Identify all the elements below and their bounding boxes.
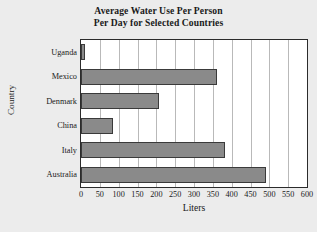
x-tick-label-100: 100 — [113, 190, 125, 199]
y-tick-label-australia: Australia — [47, 170, 77, 179]
bar-italy[interactable] — [81, 142, 225, 158]
y-tick-label-china: China — [57, 121, 77, 130]
x-tick-label-50: 50 — [96, 190, 104, 199]
x-tick-label-400: 400 — [226, 190, 238, 199]
x-tick-label-250: 250 — [169, 190, 181, 199]
bar-australia[interactable] — [81, 167, 266, 183]
y-axis-title: Country — [6, 70, 16, 130]
x-tick-label-150: 150 — [131, 190, 143, 199]
plot-area — [80, 39, 308, 188]
y-tick-label-denmark: Denmark — [46, 97, 77, 106]
bar-denmark[interactable] — [81, 93, 159, 109]
y-axis-tick-labels: UgandaMexicoDenmarkChinaItalyAustralia — [22, 39, 77, 188]
x-tick-label-300: 300 — [188, 190, 200, 199]
bars-layer — [81, 40, 307, 187]
x-tick-label-200: 200 — [150, 190, 162, 199]
y-tick-label-italy: Italy — [62, 146, 77, 155]
x-tick-label-350: 350 — [207, 190, 219, 199]
x-axis-title: Liters — [80, 202, 308, 213]
bar-row — [81, 93, 307, 109]
x-tick-label-600: 600 — [301, 190, 313, 199]
bar-chart-figure: Average Water Use Per Person Per Day for… — [0, 0, 317, 232]
bar-row — [81, 118, 307, 134]
x-axis-tick-labels: 050100150200250300350400450500550600 — [80, 190, 308, 202]
bar-uganda[interactable] — [81, 44, 85, 60]
bar-row — [81, 167, 307, 183]
chart-title-line-1: Average Water Use Per Person — [0, 5, 317, 17]
y-tick-label-uganda: Uganda — [51, 48, 77, 57]
x-tick-label-450: 450 — [244, 190, 256, 199]
bar-china[interactable] — [81, 118, 113, 134]
bar-mexico[interactable] — [81, 69, 217, 85]
y-tick-label-mexico: Mexico — [52, 72, 77, 81]
x-tick-label-550: 550 — [282, 190, 294, 199]
chart-title: Average Water Use Per Person Per Day for… — [0, 5, 317, 28]
x-tick-label-0: 0 — [79, 190, 83, 199]
chart-title-line-2: Per Day for Selected Countries — [0, 17, 317, 29]
x-tick-label-500: 500 — [263, 190, 275, 199]
bar-row — [81, 44, 307, 60]
bar-row — [81, 69, 307, 85]
bar-row — [81, 142, 307, 158]
